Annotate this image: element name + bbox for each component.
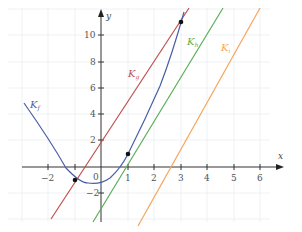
x-tick-label: 5 [231, 173, 237, 183]
x-tick-label: 3 [178, 173, 184, 183]
label-ki: Ki [220, 42, 230, 54]
label-kf: Kf [29, 99, 41, 112]
label-kh: Kh [186, 36, 198, 48]
y-tick-label: 2 [90, 135, 96, 145]
point-neg1-neg1 [73, 178, 78, 183]
axes [22, 9, 284, 222]
grid [8, 8, 270, 222]
y-tick-label: −2 [86, 188, 99, 198]
curve-kg [51, 8, 189, 219]
y-tick-label: 4 [90, 109, 96, 119]
x-tick-label: 6 [257, 173, 263, 183]
x-tick-label: 4 [204, 173, 210, 183]
y-tick-label: 10 [84, 30, 96, 40]
function-graph: −2 1 2 3 4 5 6 0 10 8 6 4 2 −2 x y Kf Kg… [0, 0, 302, 232]
y-tick-label: 8 [90, 57, 96, 67]
x-axis-label: x [278, 151, 283, 161]
point-1-1 [126, 152, 131, 157]
x-axis-arrow-icon [276, 164, 284, 170]
x-tick-label: −2 [41, 173, 54, 183]
point-3-11 [179, 20, 184, 25]
x-tick-label: 1 [125, 173, 131, 183]
y-axis-arrow-icon [98, 9, 104, 17]
y-axis-label: y [105, 11, 112, 21]
label-kg: Kg [127, 68, 139, 81]
origin-label: 0 [93, 172, 99, 182]
y-tick-label: 6 [90, 83, 96, 93]
x-tick-label: 2 [151, 173, 157, 183]
